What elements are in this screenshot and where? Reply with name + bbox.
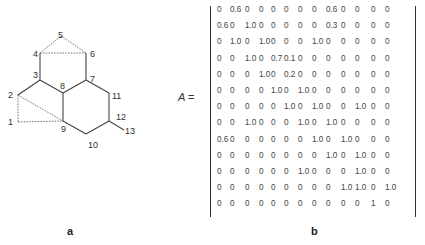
matrix-cell: 0 — [298, 183, 303, 192]
matrix-cell: 0 — [298, 21, 303, 30]
matrix-cell: 0 — [245, 37, 250, 46]
matrix-cell: 1.0 — [259, 37, 270, 46]
matrix-cell: 0 — [259, 102, 264, 111]
matrix-cell: 0 — [284, 151, 289, 160]
matrix-cell: 0 — [230, 21, 235, 30]
matrix-cell: 0 — [259, 167, 264, 176]
node-label-12: 12 — [116, 112, 126, 122]
matrix-cell: 0 — [217, 54, 222, 63]
matrix-cell: 1.0 — [284, 102, 295, 111]
solid-edge — [63, 121, 86, 134]
matrix-symbol: A — [178, 91, 185, 103]
matrix-cell: 0 — [312, 54, 317, 63]
matrix-cell: 0.6 — [326, 5, 337, 14]
matrix-cell: 0 — [217, 118, 222, 127]
matrix-cell: 0 — [341, 102, 346, 111]
matrix-cell: 0 — [385, 21, 390, 30]
matrix-cell: 1.0 — [271, 86, 282, 95]
matrix-cell: 0 — [284, 5, 289, 14]
matrix-cell: 1.0 — [326, 118, 337, 127]
matrix-cell: 1.0 — [326, 151, 337, 160]
matrix-cell: 0 — [371, 151, 376, 160]
matrix-cell: 0 — [284, 118, 289, 127]
matrix-cell: 1.0 — [230, 37, 241, 46]
matrix-row: 0.601.0000000.30000 — [214, 19, 414, 35]
matrix-cell: 0 — [284, 86, 289, 95]
node-label-10: 10 — [88, 140, 98, 150]
matrix-cell: 0 — [312, 86, 317, 95]
matrix-cell: 0 — [230, 86, 235, 95]
matrix-cell: 0 — [271, 37, 276, 46]
matrix-cell: 1 — [371, 199, 376, 208]
matrix-cell: 0 — [284, 167, 289, 176]
matrix-cell: 0 — [385, 70, 390, 79]
matrix-bracket-right — [415, 6, 416, 217]
matrix-cell: 0 — [217, 151, 222, 160]
matrix-cell: 0 — [371, 86, 376, 95]
matrix-cell: 0.3 — [326, 21, 337, 30]
matrix-cell: 1.0 — [312, 37, 323, 46]
matrix-cell: 0 — [217, 70, 222, 79]
matrix-cell: 0 — [341, 167, 346, 176]
matrix-cell: 0 — [230, 199, 235, 208]
matrix-cell: 0 — [245, 199, 250, 208]
matrix-cell: 0 — [217, 102, 222, 111]
matrix-cell: 0 — [230, 54, 235, 63]
matrix-row: 000001.001.0001.000 — [214, 100, 414, 116]
matrix-cell: 0 — [385, 167, 390, 176]
matrix-cell: 0 — [259, 183, 264, 192]
matrix-row: 0000000001.01.001.0 — [214, 181, 414, 197]
matrix-cell: 0 — [217, 5, 222, 14]
matrix-cell: 0 — [371, 118, 376, 127]
matrix-cell: 0 — [385, 135, 390, 144]
matrix-cell: 0 — [341, 54, 346, 63]
matrix-cell: 0 — [245, 5, 250, 14]
node-label-3: 3 — [33, 70, 38, 80]
matrix-cell: 0 — [326, 70, 331, 79]
matrix-cell: 0 — [312, 5, 317, 14]
matrix-cell: 1.0 — [298, 118, 309, 127]
matrix-cell: 0 — [271, 135, 276, 144]
molecular-graph: 12345678910111213 — [0, 0, 200, 170]
matrix-cell: 0 — [341, 86, 346, 95]
matrix-cell: 1.0 — [312, 102, 323, 111]
matrix-row: 01.001.00001.000000 — [214, 35, 414, 51]
matrix-cell: 0 — [371, 5, 376, 14]
matrix-row: 00.60000000.60000 — [214, 3, 414, 19]
matrix-cell: 1.0 — [245, 118, 256, 127]
matrix-cell: 1.0 — [385, 183, 396, 192]
matrix-cell: 0.2 — [284, 70, 295, 79]
matrix-cell: 0 — [326, 167, 331, 176]
matrix-cell: 0.1 — [284, 54, 295, 63]
matrix-cell: 0 — [271, 21, 276, 30]
matrix-cell: 0 — [245, 86, 250, 95]
matrix-cell: 0 — [312, 21, 317, 30]
node-label-9: 9 — [61, 124, 66, 134]
matrix-cell: 0.7 — [271, 54, 282, 63]
matrix-cell: 0 — [284, 199, 289, 208]
matrix-cell: 0 — [271, 118, 276, 127]
node-label-6: 6 — [90, 49, 95, 59]
matrix-cell: 1.0 — [298, 167, 309, 176]
solid-edge — [86, 121, 109, 134]
matrix-cell: 1.0 — [312, 135, 323, 144]
matrix-cell: 1.0 — [259, 70, 270, 79]
matrix-cell: 0 — [259, 135, 264, 144]
matrix-cell: 0 — [271, 102, 276, 111]
matrix-cell: 1.0 — [355, 183, 366, 192]
matrix-cell: 0.6 — [217, 21, 228, 30]
solid-edge — [63, 80, 86, 93]
matrix-cell: 0 — [371, 54, 376, 63]
node-label-8: 8 — [60, 81, 65, 91]
matrix-cell: 0 — [326, 135, 331, 144]
matrix-cell: 0 — [298, 37, 303, 46]
matrix-cell: 0 — [298, 135, 303, 144]
matrix-cell: 0 — [326, 54, 331, 63]
matrix-cell: 0 — [217, 183, 222, 192]
matrix-cell: 0 — [312, 118, 317, 127]
matrix-cell: 0 — [385, 54, 390, 63]
matrix-cell: 0 — [271, 70, 276, 79]
matrix-cell: 0 — [230, 167, 235, 176]
solid-edge — [18, 80, 40, 95]
dashed-edge — [18, 95, 63, 121]
